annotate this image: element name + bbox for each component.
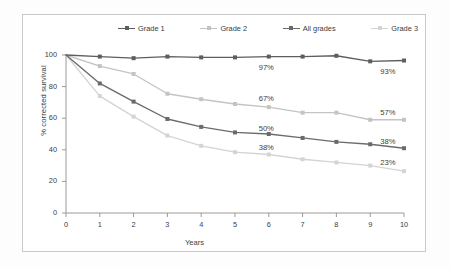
y-tick-label: 20	[35, 176, 57, 185]
legend-item-grade-1[interactable]: Grade 1	[118, 24, 165, 33]
data-label: 67%	[259, 94, 274, 103]
legend-swatch-grade-3	[371, 25, 388, 32]
x-tick-label: 3	[159, 220, 175, 229]
data-label: 50%	[259, 124, 274, 133]
x-tick-label: 5	[227, 220, 243, 229]
legend-item-grade-2[interactable]: Grade 2	[200, 24, 247, 33]
x-tick-label: 6	[261, 220, 277, 229]
legend-label-all-grades: All grades	[303, 24, 336, 33]
legend-marker-grade-1	[125, 26, 129, 30]
y-axis-title: % corrected survival	[39, 56, 48, 146]
chart-legend: Grade 1 Grade 2 All grades Grade 3	[118, 20, 418, 36]
data-label: 38%	[259, 143, 274, 152]
x-tick-label: 9	[362, 220, 378, 229]
x-tick-label: 10	[396, 220, 412, 229]
data-label: 23%	[380, 158, 395, 167]
x-tick-label: 0	[58, 220, 74, 229]
x-axis-title: Years	[185, 238, 204, 247]
legend-item-grade-3[interactable]: Grade 3	[371, 24, 418, 33]
legend-swatch-all-grades	[283, 25, 300, 32]
legend-marker-grade-2	[207, 26, 211, 30]
data-label: 57%	[380, 108, 395, 117]
y-tick-label: 0	[35, 208, 57, 217]
legend-swatch-grade-2	[200, 25, 217, 32]
x-tick-label: 2	[126, 220, 142, 229]
legend-swatch-grade-1	[118, 25, 135, 32]
data-label: 38%	[380, 137, 395, 146]
legend-label-grade-2: Grade 2	[220, 24, 247, 33]
data-label: 97%	[259, 63, 274, 72]
legend-item-all-grades[interactable]: All grades	[283, 24, 336, 33]
x-tick-label: 4	[193, 220, 209, 229]
legend-marker-grade-3	[378, 26, 382, 30]
legend-marker-all-grades	[289, 26, 293, 30]
legend-label-grade-3: Grade 3	[391, 24, 418, 33]
y-tick-label: 40	[35, 145, 57, 154]
data-label: 93%	[380, 67, 395, 76]
figure-root: Grade 1 Grade 2 All grades Grade 3 % cor…	[0, 0, 450, 268]
y-tick-label: 100	[35, 50, 57, 59]
chart-border	[22, 14, 426, 252]
x-tick-label: 8	[328, 220, 344, 229]
x-tick-label: 7	[295, 220, 311, 229]
y-tick-label: 80	[35, 82, 57, 91]
legend-label-grade-1: Grade 1	[138, 24, 165, 33]
x-tick-label: 1	[92, 220, 108, 229]
y-tick-label: 60	[35, 113, 57, 122]
